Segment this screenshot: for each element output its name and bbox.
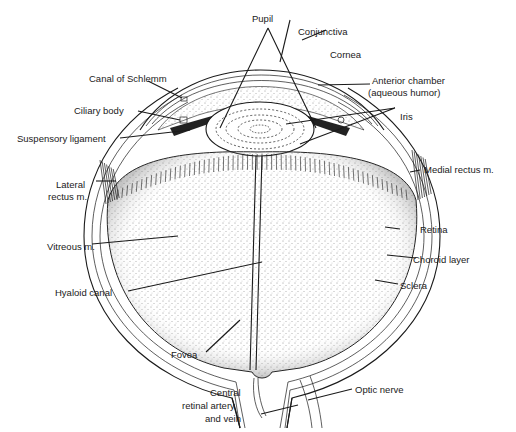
label-fovea: Fovea [171,349,198,360]
label-conjunctiva: Conjunctiva [298,26,348,37]
vitreous-body [107,152,417,378]
label-pupil: Pupil [252,13,273,24]
label-ciliary-body: Ciliary body [74,105,124,116]
label-sclera: Sclera [400,280,428,291]
optic-nerve [232,376,322,428]
label-lateral-rectus-2: rectus m. [48,191,87,202]
label-suspensory-ligament: Suspensory ligament [17,133,106,144]
eye-anatomy-diagram: Pupil Conjunctiva Cornea Anterior chambe… [0,0,516,432]
label-choroid: Choroid layer [413,254,470,265]
label-iris: Iris [400,111,413,122]
label-vitreous: Vitreous m. [47,241,95,252]
lens [206,102,314,156]
label-central-2: retinal artery [182,400,235,411]
label-central-3: and vein [205,413,241,424]
label-retina: Retina [420,224,448,235]
label-hyaloid-canal: Hyaloid canal [55,287,112,298]
label-cornea: Cornea [330,49,362,60]
label-lateral-rectus-1: Lateral [56,179,85,190]
label-canal-of-schlemm: Canal of Schlemm [89,73,167,84]
label-anterior-chamber: Anterior chamber [372,75,445,86]
label-optic-nerve: Optic nerve [355,384,404,395]
label-aqueous-humor: (aqueous humor) [368,87,440,98]
label-central-1: Central [210,387,241,398]
label-medial-rectus: Medial rectus m. [424,164,494,175]
